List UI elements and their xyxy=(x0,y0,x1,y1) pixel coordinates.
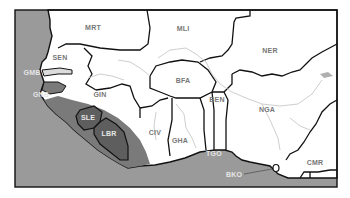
country-label-sen: SEN xyxy=(53,54,68,61)
country-label-bfa: BFA xyxy=(176,77,191,84)
country-label-gin: GIN xyxy=(93,91,106,98)
country-label-nga: NGA xyxy=(259,106,275,113)
island-bioko xyxy=(273,165,279,172)
country-label-mrt: MRT xyxy=(85,24,101,31)
country-label-cmr: CMR xyxy=(307,159,324,166)
country-label-ner: NER xyxy=(262,47,277,54)
country-label-gnb: GNB xyxy=(33,91,49,98)
country-label-mli: MLI xyxy=(177,25,190,32)
map: MRTMLINERSENGMBGNBGINBFABENNGASLELBRCIVG… xyxy=(0,0,350,198)
country-label-lbr: LBR xyxy=(102,130,117,137)
country-label-civ: CIV xyxy=(149,129,161,136)
country-label-gha: GHA xyxy=(172,137,188,144)
country-label-tgo: TGO xyxy=(206,150,222,157)
map-canvas xyxy=(0,0,350,198)
country-label-ben: BEN xyxy=(209,96,224,103)
country-label-sle: SLE xyxy=(81,114,95,121)
country-label-bko: BKO xyxy=(226,171,242,178)
country-label-gmb: GMB xyxy=(24,69,41,76)
